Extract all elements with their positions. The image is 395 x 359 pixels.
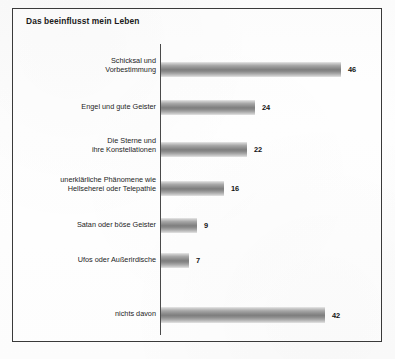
- bar-category-label: unerklärliche Phänomene wie Hellseherei …: [0, 175, 156, 194]
- bar-rect[interactable]: [161, 100, 255, 115]
- bar-rect[interactable]: [161, 218, 197, 233]
- bar-rect[interactable]: [161, 142, 247, 157]
- bar-rect[interactable]: [161, 181, 224, 196]
- plot-area: Schicksal und Vorbestimmung 46 Engel und…: [12, 8, 382, 342]
- bar-rect[interactable]: [161, 253, 189, 268]
- bar-value-label: 7: [196, 256, 200, 265]
- bar-category-label: Engel und gute Geister: [0, 102, 156, 111]
- bar-value-label: 9: [204, 221, 208, 230]
- bar-value-label: 46: [348, 65, 356, 74]
- bar-category-label: Die Sterne und ihre Konstellationen: [0, 136, 156, 155]
- bar-category-label: nichts davon: [0, 309, 156, 318]
- bar-value-label: 16: [231, 184, 239, 193]
- bar-category-label: Ufos oder Außerirdische: [0, 255, 156, 264]
- bar-rect[interactable]: [161, 62, 341, 77]
- bar-value-label: 42: [332, 311, 340, 320]
- bar-value-label: 22: [254, 145, 262, 154]
- bar-value-label: 24: [262, 103, 270, 112]
- bar-rect[interactable]: [161, 307, 325, 323]
- bar-category-label: Schicksal und Vorbestimmung: [0, 56, 156, 75]
- chart-page: Das beeinflusst mein Leben Schicksal und…: [0, 0, 395, 359]
- bar-category-label: Satan oder böse Geister: [0, 220, 156, 229]
